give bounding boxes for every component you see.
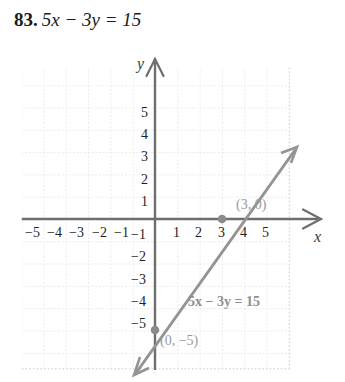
problem-header: 83.5x − 3y = 15 xyxy=(14,8,141,32)
y-tick-label-4: 4 xyxy=(141,128,148,142)
y-axis-label: y xyxy=(137,56,144,72)
point-label-0-neg5: (0, −5) xyxy=(160,334,198,348)
y-tick-label-neg3: −3 xyxy=(131,273,146,287)
y-tick-label-1: 1 xyxy=(141,195,148,209)
y-tick-label-2: 2 xyxy=(141,173,148,187)
x-tick-label-neg3: −3 xyxy=(69,226,84,240)
point-3-0-marker xyxy=(218,215,227,224)
problem-number: 83. xyxy=(14,9,38,30)
y-tick-label-neg2: −2 xyxy=(131,250,146,264)
x-tick-label-5: 5 xyxy=(262,226,269,240)
y-tick-label-neg5: −5 xyxy=(131,317,146,331)
x-tick-label-neg4: −4 xyxy=(47,226,62,240)
coordinate-graph-figure: 5 4 3 2 1 −1 −2 −3 −4 −5 −5 −4 −3 −2 −1 … xyxy=(0,46,345,382)
x-tick-label-neg5: −5 xyxy=(25,226,40,240)
x-tick-label-neg2: −2 xyxy=(92,226,107,240)
x-tick-label-neg1: −1 xyxy=(114,226,129,240)
x-tick-label-1: 1 xyxy=(173,226,180,240)
y-tick-label-5: 5 xyxy=(141,106,148,120)
point-0-neg5-marker xyxy=(151,326,160,335)
y-tick-label-3: 3 xyxy=(141,150,148,164)
y-tick-label-neg1: −1 xyxy=(131,228,146,242)
point-label-3-0: (3, 0) xyxy=(236,198,266,212)
x-tick-label-3: 3 xyxy=(218,226,225,240)
x-tick-label-2: 2 xyxy=(195,226,202,240)
x-axis-label: x xyxy=(314,229,321,245)
graph-canvas xyxy=(0,46,345,382)
y-tick-label-neg4: −4 xyxy=(131,295,146,309)
line-equation-label: 5x − 3y = 15 xyxy=(188,295,260,309)
x-tick-label-4: 4 xyxy=(240,226,247,240)
problem-equation: 5x − 3y = 15 xyxy=(42,9,142,30)
